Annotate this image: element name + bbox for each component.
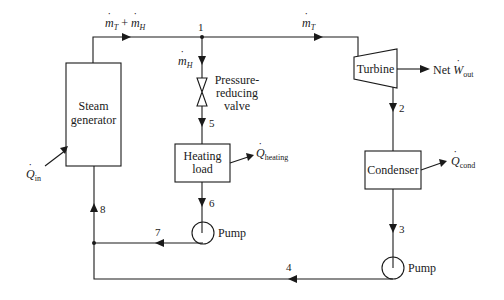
cogeneration-diagram: mT + mH mT mH 1 2 3 4 5 6 7 8 Steam gene… (0, 0, 504, 300)
valve-shape (197, 78, 207, 106)
q-in-line (45, 150, 66, 166)
mdot-symbol: m (178, 55, 187, 67)
state-8-label: 8 (100, 204, 106, 215)
plus-sign: + (121, 16, 128, 30)
main-steam-pipe (93, 37, 358, 63)
label-w-out: Net Wout (433, 64, 474, 79)
arrow-q-in (60, 146, 68, 154)
label-total-flow: mT + mH (105, 17, 145, 32)
turbine-label: Turbine (354, 63, 397, 75)
sub-out: out (463, 70, 473, 79)
steam-generator-label: Steam generator (66, 99, 121, 127)
sub-cond: cond (460, 161, 476, 170)
junction-8-dot (92, 241, 96, 245)
state-4-label: 4 (286, 262, 292, 273)
state-6-label: 6 (209, 198, 215, 209)
arrow-q-heating (246, 153, 254, 161)
diagram-lines (0, 0, 504, 300)
sub-T: T (311, 23, 315, 32)
arrow-q-cond (439, 159, 447, 167)
arrow-total-flow (122, 33, 131, 41)
q-heating-line (230, 157, 248, 163)
mdot-symbol: m (105, 17, 114, 29)
arrow-heating-flow (198, 56, 206, 65)
arrow-state-5 (198, 118, 206, 127)
sg-line1: Steam (66, 99, 121, 113)
label-heating-flow: mH (178, 55, 192, 70)
state-2-label: 2 (399, 103, 405, 114)
state-7-label: 7 (155, 227, 161, 238)
sg-line2: generator (66, 113, 121, 127)
q-cond-line (421, 163, 441, 170)
valve-line3: valve (208, 100, 266, 113)
mdot-symbol: m (131, 17, 140, 29)
wdot-symbol: W (453, 64, 463, 76)
junction-1-dot (200, 35, 204, 39)
condenser-pump-label: Pump (408, 262, 436, 274)
arrow-state-8 (90, 203, 98, 212)
state-1-label: 1 (198, 22, 204, 33)
arrow-state-3 (389, 224, 397, 233)
arrow-state-6 (198, 198, 206, 207)
net-prefix: Net (433, 63, 450, 77)
qdot-symbol: Q (256, 147, 265, 159)
process-pump-circle (192, 222, 214, 244)
sub-in: in (35, 174, 41, 183)
sub-H: H (187, 61, 193, 70)
heating-load-label: Heating load (175, 150, 230, 176)
arrow-state-2 (389, 103, 397, 112)
state-5-label: 5 (209, 118, 215, 129)
pipe-state-4-8 (94, 166, 393, 279)
label-q-heating: Qheating (256, 147, 288, 162)
valve-label: Pressure- reducing valve (208, 74, 266, 113)
sub-H: H (140, 23, 146, 32)
qdot-symbol: Q (26, 168, 35, 180)
sub-heating: heating (265, 153, 289, 162)
arrow-work-out (420, 65, 430, 73)
mdot-symbol: m (302, 17, 311, 29)
label-q-cond: Qcond (451, 155, 475, 170)
hl-line2: load (175, 163, 230, 176)
sub-T: T (114, 23, 118, 32)
arrow-turbine-flow (314, 33, 323, 41)
process-pump-label: Pump (218, 227, 246, 239)
arrow-state-7 (155, 239, 164, 247)
qdot-symbol: Q (451, 155, 460, 167)
label-turbine-flow: mT (302, 17, 315, 32)
condenser-label: Condenser (365, 164, 421, 176)
arrow-state-4 (288, 275, 297, 283)
label-q-in: Qin (26, 168, 41, 183)
state-3-label: 3 (399, 224, 405, 235)
